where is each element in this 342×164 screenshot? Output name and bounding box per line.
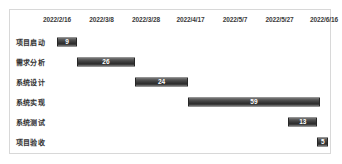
gantt-bar[interactable]: 13 [288, 118, 317, 127]
gantt-bar-value: 59 [250, 99, 257, 106]
axis-tick-label: 2022/4/17 [176, 16, 204, 23]
task-name-label: 需求分析 [16, 57, 45, 67]
axis-tick-label: 2022/2/16 [43, 16, 71, 23]
gantt-bar-value: 26 [102, 59, 109, 66]
gantt-task-row: 需求分析26 [10, 52, 330, 72]
gantt-bar-value: 24 [158, 79, 165, 86]
axis-tick-label: 2022/3/8 [89, 16, 114, 23]
gantt-bar[interactable]: 5 [317, 138, 328, 147]
gantt-bar[interactable]: 59 [188, 98, 319, 107]
gantt-bar[interactable]: 9 [57, 38, 77, 47]
task-name-label: 系统实现 [16, 97, 45, 107]
gantt-task-row: 系统实现59 [10, 92, 330, 112]
task-name-label: 项目启动 [16, 37, 45, 47]
gantt-bar-value: 13 [299, 119, 306, 126]
axis-tick-label: 2022/6/16 [310, 16, 338, 23]
gantt-task-row: 系统测试13 [10, 112, 330, 132]
task-name-label: 系统测试 [16, 117, 45, 127]
axis-tick-label: 2022/3/28 [132, 16, 160, 23]
axis-tick-label: 2022/5/7 [223, 16, 248, 23]
task-name-label: 项目验收 [16, 137, 45, 147]
gantt-bar-value: 9 [65, 39, 69, 46]
gantt-task-row: 系统设计24 [10, 72, 330, 92]
gantt-plot-area: 项目启动9需求分析26系统设计24系统实现59系统测试13项目验收5 [10, 31, 330, 153]
gantt-task-row: 项目启动9 [10, 32, 330, 52]
gantt-task-row: 项目验收5 [10, 132, 330, 152]
date-axis: 2022/2/162022/3/82022/3/282022/4/172022/… [10, 10, 330, 32]
gantt-chart-card: 2022/2/162022/3/82022/3/282022/4/172022/… [9, 9, 331, 154]
gantt-bar[interactable]: 26 [77, 58, 135, 67]
gantt-bar[interactable]: 24 [135, 78, 188, 87]
axis-tick-label: 2022/5/27 [265, 16, 293, 23]
task-name-label: 系统设计 [16, 77, 45, 87]
gantt-bar-value: 5 [321, 139, 325, 146]
